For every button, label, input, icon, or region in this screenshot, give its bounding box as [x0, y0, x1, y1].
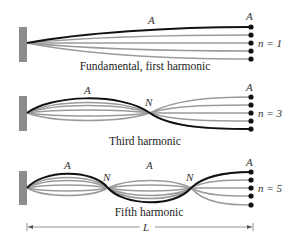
mode-label: n = 5 — [258, 182, 282, 194]
antinode-label: A — [245, 156, 253, 168]
panel-fundamental: A A n = 1 Fundamental, first harmonic — [19, 10, 282, 73]
fixed-wall — [19, 171, 27, 205]
mode-label: n = 3 — [258, 107, 282, 119]
antinode-label: A — [245, 81, 253, 93]
arrowhead-left-icon — [28, 225, 33, 229]
length-dimension: L — [27, 221, 253, 233]
end-dots — [248, 169, 253, 207]
panel-third-harmonic: A N A n = 3 Third harmonic — [19, 81, 282, 147]
panel-caption: Third harmonic — [109, 135, 181, 147]
panel-caption: Fifth harmonic — [115, 206, 184, 218]
length-label: L — [142, 221, 149, 233]
panel-fifth-harmonic: A A A N N n = 5 Fifth harmonic — [19, 156, 282, 218]
end-dots — [248, 94, 253, 131]
antinode-label: A — [147, 14, 155, 26]
arrowhead-right-icon — [247, 225, 252, 229]
string-position — [27, 43, 251, 51]
node-label: N — [144, 96, 153, 108]
antinode-label: A — [63, 159, 71, 171]
antinode-label: A — [83, 84, 91, 96]
fixed-wall — [19, 27, 27, 62]
mode-label: n = 1 — [258, 37, 282, 49]
antinode-label: A — [245, 10, 253, 22]
panel-caption: Fundamental, first harmonic — [80, 60, 211, 73]
node-label: N — [185, 171, 194, 183]
fixed-wall — [19, 96, 27, 131]
node-label: N — [102, 171, 111, 183]
antinode-label: A — [145, 159, 153, 171]
standing-waves-diagram: A A n = 1 Fundamental, first harmonic A … — [0, 0, 299, 249]
end-dots — [248, 24, 253, 61]
string-position — [27, 35, 251, 43]
